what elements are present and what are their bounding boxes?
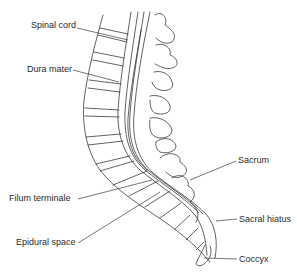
label-sacrum: Sacrum [238,155,269,165]
label-dura-mater: Dura mater [27,64,72,74]
leader-sacral-hiatus [216,219,237,221]
leader-spinal-cord [77,28,128,40]
label-spinal-cord: Spinal cord [31,20,76,30]
label-filum-terminale: Filum terminale [9,193,71,203]
leader-sacrum [190,161,236,180]
spine-diagram: Spinal cord Dura mater Filum terminale E… [0,0,297,273]
leader-epidural-space [78,192,160,243]
spine-illustration [0,0,297,273]
label-epidural-space: Epidural space [16,237,76,247]
label-coccyx: Coccyx [239,254,269,264]
leader-dura-mater [73,70,119,82]
label-sacral-hiatus: Sacral hiatus [239,214,291,224]
